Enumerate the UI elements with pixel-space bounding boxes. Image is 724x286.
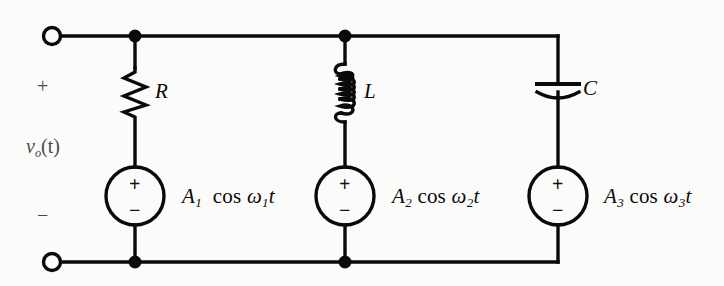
circuit-schematic-svg <box>0 0 724 286</box>
source3-omega: ω <box>663 184 678 208</box>
source3-cos: cos <box>629 184 658 208</box>
source1-plus-sign: + <box>129 174 140 194</box>
junction-dot-top-branch1 <box>129 30 142 43</box>
source1-amplitude: A <box>182 184 195 208</box>
source2-formula: A2 cos ω2t <box>392 186 479 209</box>
source2-amplitude-subscript: 2 <box>405 195 412 210</box>
junction-dot-bottom-branch2 <box>339 256 352 269</box>
source3-time-var: t <box>685 184 691 208</box>
source2-omega: ω <box>451 184 466 208</box>
junction-dot-bottom-branch1 <box>129 256 142 269</box>
circuit-figure: + vo(t) − R L C + − + − + − A1 cos ω1t A… <box>0 0 724 286</box>
source1-time-var: t <box>269 184 275 208</box>
source2-minus-sign: − <box>339 200 350 220</box>
port-minus-sign: − <box>37 205 48 225</box>
open-terminal-top-icon[interactable] <box>44 28 61 45</box>
capacitor-label-C: C <box>583 78 597 99</box>
port-plus-sign: + <box>37 76 48 96</box>
source1-omega-subscript: 1 <box>262 195 269 210</box>
source1-amplitude-subscript: 1 <box>195 195 202 210</box>
source3-plus-sign: + <box>552 174 563 194</box>
port-voltage-v: v <box>26 135 35 157</box>
source3-minus-sign: − <box>552 200 563 220</box>
junction-dot-top-branch2 <box>339 30 352 43</box>
inductor-label-L: L <box>364 81 376 102</box>
source1-omega: ω <box>247 184 262 208</box>
source1-formula: A1 cos ω1t <box>182 186 275 209</box>
source1-minus-sign: − <box>129 200 140 220</box>
source2-amplitude: A <box>392 184 405 208</box>
source2-plus-sign: + <box>339 174 350 194</box>
port-voltage-label: vo(t) <box>26 136 60 159</box>
source3-amplitude-subscript: 3 <box>617 195 624 210</box>
open-terminal-bottom-icon[interactable] <box>44 254 61 271</box>
source1-cos: cos <box>213 184 242 208</box>
resistor-label-R: R <box>155 81 168 102</box>
source2-time-var: t <box>473 184 479 208</box>
source2-cos: cos <box>417 184 446 208</box>
source3-formula: A3 cos ω3t <box>604 186 691 209</box>
resistor-zigzag-R <box>124 68 146 167</box>
source3-amplitude: A <box>604 184 617 208</box>
port-voltage-arg: (t) <box>41 135 60 157</box>
